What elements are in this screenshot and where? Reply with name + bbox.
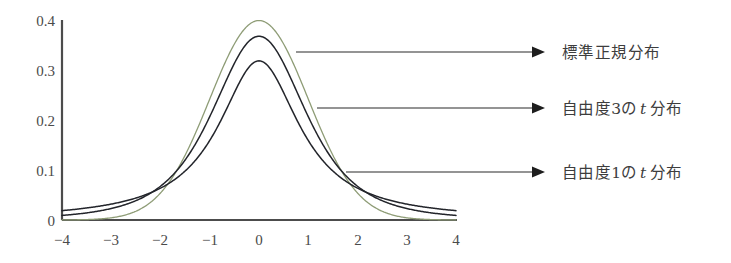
x-tick-label: 2 — [354, 232, 362, 248]
x-tick-label: 4 — [452, 232, 460, 248]
x-tick-label: −1 — [202, 232, 218, 248]
y-tick-label: 0.4 — [36, 13, 55, 29]
x-tick-label: −2 — [152, 232, 168, 248]
x-tick-label: −4 — [54, 232, 70, 248]
annotation-label-standard-normal: 標準正規分布 — [562, 44, 660, 62]
annotation-label-t-df3: 自由度3のt分布 — [562, 100, 682, 118]
x-tick-label: 1 — [304, 232, 312, 248]
chart-background — [0, 0, 731, 263]
y-tick-label: 0.2 — [36, 113, 55, 129]
annot-t3-prefix: 自由度3の — [562, 100, 638, 118]
x-tick-label: 3 — [403, 232, 411, 248]
x-tick-label: 0 — [255, 232, 263, 248]
annot-t1-prefix: 自由度1の — [562, 164, 638, 182]
y-tick-label: 0 — [48, 213, 56, 229]
annot-t3-variable: t — [640, 100, 647, 118]
annotation-label-t-df1: 自由度1のt分布 — [562, 164, 682, 182]
x-tick-label: −3 — [103, 232, 119, 248]
annot-t1-suffix: 分布 — [650, 164, 683, 182]
distribution-comparison-chart: 0.4 0.3 0.2 0.1 0 −4 −3 −2 −1 0 1 2 3 4 … — [0, 0, 731, 263]
annot-t1-variable: t — [640, 164, 647, 182]
annot-t3-suffix: 分布 — [650, 100, 683, 118]
y-tick-label: 0.1 — [36, 163, 55, 179]
y-tick-label: 0.3 — [36, 63, 55, 79]
